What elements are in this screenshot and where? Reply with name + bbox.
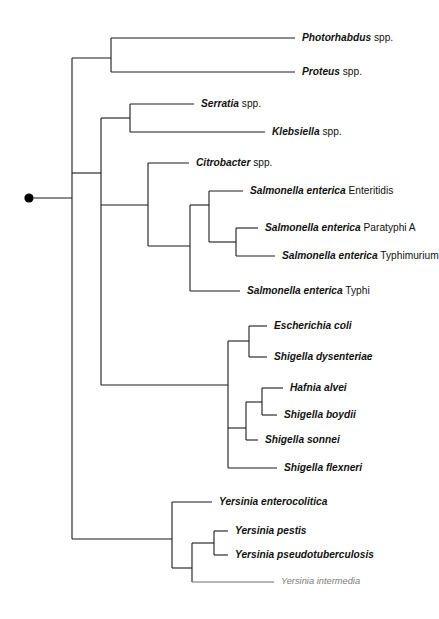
leaf-label-yersinia-pestis: Yersinia pestis [235,526,307,536]
leaf-genus-shigella-sonnei: Shigella sonnei [265,434,340,445]
leaf-label-salmonella-typhi: Salmonella enterica Typhi [247,286,370,296]
leaf-epithet-salmonella-paratyphi-a: Paratyphi A [361,222,416,233]
leaf-label-photorhabdus: Photorhabdus spp. [302,33,393,43]
leaf-label-klebsiella: Klebsiella spp. [272,127,342,137]
leaf-label-proteus: Proteus spp. [302,67,362,77]
leaf-genus-salmonella-enteritidis: Salmonella enterica [250,185,346,196]
leaf-genus-shigella-flexneri: Shigella flexneri [284,462,362,473]
leaf-label-serratia: Serratia spp. [201,99,261,109]
leaf-label-shigella-flexneri: Shigella flexneri [284,463,362,473]
leaf-genus-yersinia-enterocolitica: Yersinia enterocolitica [219,496,327,507]
leaf-label-salmonella-enteritidis: Salmonella enterica Enteritidis [250,186,393,196]
leaf-genus-photorhabdus: Photorhabdus [302,32,371,43]
leaf-genus-shigella-dysenteriae: Shigella dysenteriae [274,351,373,362]
leaf-label-yersinia-intermedia: Yersinia intermedia [281,577,360,586]
leaf-epithet-salmonella-typhi: Typhi [343,285,370,296]
leaf-genus-yersinia-intermedia: Yersinia intermedia [281,576,360,586]
leaf-epithet-serratia: spp. [239,98,261,109]
leaf-genus-hafnia-alvei: Hafnia alvei [290,382,347,393]
root-node-dot [24,193,33,202]
leaf-epithet-klebsiella: spp. [320,126,342,137]
leaf-genus-klebsiella: Klebsiella [272,126,320,137]
leaf-label-hafnia-alvei: Hafnia alvei [290,383,347,393]
leaf-genus-shigella-boydii: Shigella boydii [284,409,356,420]
leaf-genus-salmonella-typhi: Salmonella enterica [247,285,343,296]
leaf-epithet-proteus: spp. [340,66,362,77]
leaf-genus-salmonella-paratyphi-a: Salmonella enterica [265,222,361,233]
leaf-epithet-salmonella-enteritidis: Enteritidis [346,185,394,196]
leaf-label-salmonella-typhimurium: Salmonella enterica Typhimurium [282,251,439,261]
leaf-epithet-salmonella-typhimurium: Typhimurium [378,250,439,261]
leaf-label-yersinia-pseudotuberculosis: Yersinia pseudotuberculosis [235,550,374,560]
leaf-epithet-citrobacter: spp. [250,157,272,168]
leaf-epithet-photorhabdus: spp. [371,32,393,43]
leaf-label-citrobacter: Citrobacter spp. [196,158,272,168]
leaf-genus-yersinia-pestis: Yersinia pestis [235,525,307,536]
leaf-genus-citrobacter: Citrobacter [196,157,250,168]
leaf-label-shigella-boydii: Shigella boydii [284,410,356,420]
leaf-genus-yersinia-pseudotuberculosis: Yersinia pseudotuberculosis [235,549,374,560]
leaf-label-salmonella-paratyphi-a: Salmonella enterica Paratyphi A [265,223,416,233]
leaf-label-escherichia-coli: Escherichia coli [274,321,352,331]
leaf-label-shigella-dysenteriae: Shigella dysenteriae [274,352,373,362]
leaf-label-yersinia-enterocolitica: Yersinia enterocolitica [219,497,327,507]
leaf-label-shigella-sonnei: Shigella sonnei [265,435,340,445]
leaf-genus-serratia: Serratia [201,98,239,109]
leaf-genus-proteus: Proteus [302,66,340,77]
leaf-genus-salmonella-typhimurium: Salmonella enterica [282,250,378,261]
leaf-genus-escherichia-coli: Escherichia coli [274,320,352,331]
